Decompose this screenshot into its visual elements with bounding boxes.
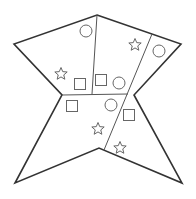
- circle-icon: [80, 25, 92, 37]
- divider-line-0: [92, 15, 97, 94]
- divider-line-2: [104, 34, 152, 150]
- region-shapes: [55, 25, 165, 153]
- star-polygon-outline: [14, 15, 182, 183]
- star-icon: [114, 142, 126, 154]
- divider-line-1: [62, 94, 128, 95]
- circle-icon: [105, 99, 117, 111]
- circle-icon: [153, 45, 165, 57]
- square-icon: [67, 101, 78, 112]
- circle-icon: [113, 77, 125, 89]
- square-icon: [124, 110, 135, 121]
- square-icon: [75, 79, 86, 90]
- star-icon: [55, 68, 67, 80]
- diagram-canvas: [0, 0, 196, 199]
- star-icon: [92, 123, 104, 135]
- star-icon: [129, 39, 141, 51]
- square-icon: [96, 75, 107, 86]
